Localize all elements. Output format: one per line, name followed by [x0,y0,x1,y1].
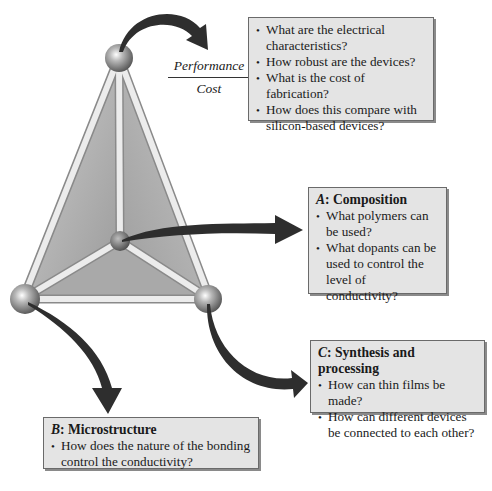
performance-cost-fraction: Performance Cost [168,58,250,97]
performance-questions-box: What are the electrical characteristics?… [248,17,434,121]
question-item: How can different devices be connected t… [318,409,478,441]
title-text: : Composition [325,192,407,207]
question-item: How can thin films be made? [318,377,478,409]
composition-box: A: Composition What polymers can be used… [308,187,447,294]
title-text: : Synthesis and processing [318,345,415,376]
fraction-numerator: Performance [168,58,250,78]
title-letter: A [316,192,325,207]
microstructure-box: B: Microstructure How does the nature of… [43,417,259,469]
title-text: : Microstructure [60,422,157,437]
question-item: How robust are the devices? [256,54,427,70]
title-letter: B [51,422,60,437]
title-letter: C [318,345,327,360]
microstructure-title: B: Microstructure [51,422,252,438]
arrow-to-performance [119,14,208,52]
synthesis-box: C: Synthesis and processing How can thin… [310,340,485,413]
question-item: How does the nature of the bonding contr… [51,438,252,470]
synthesis-title: C: Synthesis and processing [318,345,478,377]
question-item: What dopants can be used to control the … [316,240,440,304]
question-item: How does this compare with silicon-based… [256,102,427,134]
apex-sphere [105,44,133,72]
composition-title: A: Composition [316,192,440,208]
question-item: What polymers can be used? [316,208,440,240]
question-item: What are the electrical characteristics? [256,22,427,54]
arrow-to-microstructure [28,302,122,414]
fraction-denominator: Cost [168,78,250,97]
arrow-to-synthesis [207,304,308,398]
question-item: What is the cost of fabrication? [256,70,427,102]
